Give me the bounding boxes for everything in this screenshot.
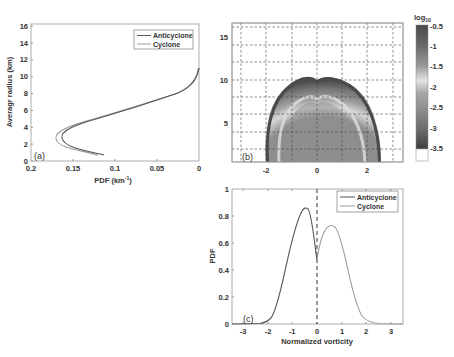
- xtick-label: -1: [289, 327, 296, 336]
- ytick-label: 16: [20, 22, 28, 31]
- ytick-label: 10: [20, 72, 28, 81]
- ytick-label: 1: [225, 185, 229, 194]
- xtick-label: -3: [240, 327, 247, 336]
- colorbar-below-range: [416, 149, 428, 161]
- xtick-label: 0.1: [110, 164, 120, 173]
- xtick-label: 0: [197, 164, 201, 173]
- panel-a-xlabel: PDF (km-1): [94, 175, 132, 185]
- xlabel-main: PDF (km: [94, 176, 125, 185]
- xlabel-end: ): [129, 176, 132, 185]
- colorbar-tick: -1: [430, 42, 437, 51]
- panel-a-label: (a): [34, 151, 45, 161]
- ytick-label: 10: [220, 76, 228, 85]
- ytick-label: 0.8: [219, 212, 229, 221]
- xtick-label: 2: [364, 327, 368, 336]
- legend-anticyclone-label: Anticyclone: [357, 194, 397, 202]
- xtick-label: -2: [265, 327, 272, 336]
- xtick-label: 2: [365, 166, 369, 175]
- colorbar-tick: -3.5: [430, 144, 443, 153]
- colorbar-tick: -0.5: [430, 22, 443, 31]
- panel-c-ylabel: PDF: [208, 248, 217, 263]
- ytick-label: 2: [24, 140, 28, 149]
- colorbar: log10 -0.5 -1 -1.5 -2 -2.5 -3 -3.5: [414, 13, 443, 161]
- colorbar-tick: -2.5: [430, 103, 443, 112]
- ytick-label: 14: [20, 39, 29, 48]
- xtick-label: 0.2: [26, 164, 36, 173]
- ytick-label: 0: [225, 320, 229, 329]
- ytick-label: 6: [24, 106, 28, 115]
- xtick-label: 3: [389, 327, 393, 336]
- colorbar-tick: -1.5: [430, 62, 443, 71]
- ytick-label: 5: [224, 119, 228, 128]
- ytick-label: 0.6: [219, 239, 229, 248]
- ytick-label: 15: [220, 33, 228, 42]
- xtick-label: -2: [263, 166, 270, 175]
- legend-cyclone-label: Cyclone: [153, 41, 180, 49]
- ytick-label: 12: [20, 55, 28, 64]
- ytick-label: 4: [24, 123, 29, 132]
- xtick-label: 0.05: [150, 164, 165, 173]
- legend-cyclone-label: Cyclone: [357, 203, 384, 211]
- colorbar-tick: -3: [430, 124, 437, 133]
- ytick-label: 0.2: [219, 293, 229, 302]
- panel-c-label: (c): [243, 314, 254, 324]
- colorbar-tick: -2: [430, 83, 437, 92]
- colorbar-title: log10: [414, 13, 431, 23]
- ytick-label: 0.4: [219, 266, 230, 275]
- panel-a-legend: Anticyclone Cyclone: [134, 30, 193, 49]
- xtick-label: 1: [340, 327, 344, 336]
- ytick-label: 8: [24, 89, 28, 98]
- legend-anticyclone-label: Anticyclone: [153, 32, 193, 40]
- xtick-label: 0: [315, 166, 319, 175]
- xtick-label: 0.15: [66, 164, 81, 173]
- colorbar-title-main: log: [414, 13, 426, 22]
- panel-c-xlabel: Normalized vorticity: [281, 337, 354, 346]
- panel-c: 0 0.2 0.4 0.6 0.8 1 -3 -2 -1 0 1: [208, 185, 403, 347]
- panel-c-legend: Anticyclone Cyclone: [337, 191, 398, 212]
- panel-b-label: (b): [242, 152, 253, 162]
- figure: 0 2 4 6 8 10 12 14 16 0.2 0.15 0.1 0.05 …: [0, 0, 454, 357]
- panel-a-ylabel: Averagr radius (km): [5, 56, 14, 127]
- panel-b: 15 10 5 -2 0 2 (b) log10 -0.5 -1 -1.5 -2…: [220, 13, 443, 175]
- xtick-label: 0: [315, 327, 319, 336]
- colorbar-gradient: [416, 25, 428, 149]
- panel-a: 0 2 4 6 8 10 12 14 16 0.2 0.15 0.1 0.05 …: [5, 22, 201, 185]
